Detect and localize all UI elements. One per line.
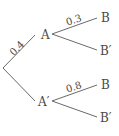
edge-root-to-a-prime: [3, 68, 35, 101]
node-a-prime-b-prime-label: B′: [100, 111, 112, 125]
node-a-label: A: [40, 28, 50, 42]
node-a-prime-b-label: B: [101, 78, 110, 92]
node-a-b-label: B: [101, 11, 110, 25]
edge-a-prime-b-probability: 0.8: [64, 79, 83, 94]
edge-a-prime-to-b-prime: [52, 101, 97, 117]
node-a-prime-label: A′: [37, 95, 50, 109]
probability-tree-diagram: A A′ B B′ B B′ 0.4 0.3 0.8: [0, 0, 119, 136]
node-a-b-prime-label: B′: [100, 44, 112, 58]
edge-root-a-probability: 0.4: [7, 39, 26, 58]
edge-a-b-probability: 0.3: [64, 12, 83, 27]
edge-a-to-b-prime: [52, 34, 97, 50]
